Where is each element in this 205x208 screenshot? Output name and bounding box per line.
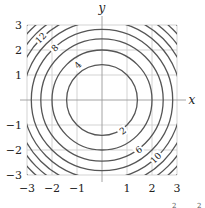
caption-superscript: 2 [172,202,176,208]
y-tick: 1 [15,69,22,82]
x-tick-labels: −3 −2 −1 1 2 3 [19,182,181,195]
x-tick: 1 [124,182,131,195]
x-tick: −3 [19,182,35,195]
caption-superscript: 2 [197,202,201,208]
contour-plot: 12 8 4 2 6 10 y x 3 2 1 −1 −2 −3 −3 −2 −… [0,0,205,208]
x-tick: −2 [44,182,60,195]
x-axis-label: x [189,93,196,107]
y-axis-label: y [98,1,106,15]
x-tick: 2 [149,182,156,195]
y-tick: 2 [15,44,22,57]
x-tick: −1 [69,182,85,195]
y-tick-labels: 3 2 1 −1 −2 −3 [6,19,22,182]
y-tick: −3 [6,169,22,182]
y-tick: 3 [15,19,22,32]
x-tick: 3 [174,182,181,195]
y-tick: −1 [6,119,22,132]
y-tick: −2 [6,144,22,157]
